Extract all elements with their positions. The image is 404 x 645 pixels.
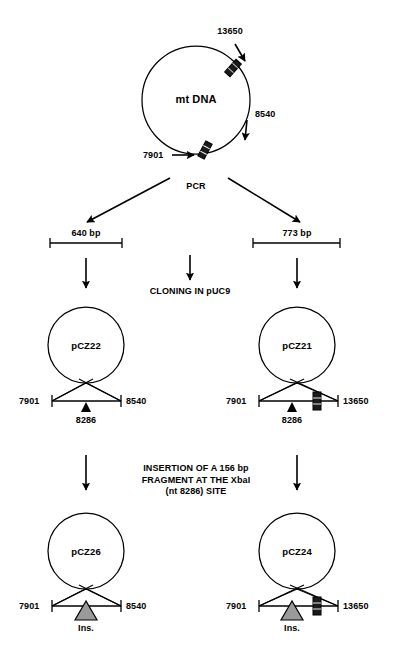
plasmid-pcz26-graphic [48,513,124,620]
arrow-13650 [235,44,245,61]
plasmid-label-pcz24: pCZ24 [282,546,312,557]
figure-root: 13650 mt DNA 8540 7901 PCR 640 bp 773 bp… [0,0,404,645]
arrow-pcr-left [87,178,170,222]
pcz26-right-coord: 8540 [126,601,146,612]
pcz26-left-coord: 7901 [19,601,39,612]
insert-triangle-pcz24 [281,601,303,620]
pcz22-site-label: 8286 [76,415,96,426]
fragment-label-773bp: 773 bp [282,228,311,239]
pcz24-insert-label: Ins. [284,623,300,634]
plasmid-pcz22-graphic [48,307,124,412]
fragment-bar-left [50,238,122,248]
pcz24-left-coord: 7901 [226,601,246,612]
pcz21-left-coord: 7901 [226,396,246,407]
step-cloning-label: CLONING IN pUC9 [150,286,231,297]
mtdna-position-8540: 8540 [255,109,275,120]
pcz21-right-coord: 13650 [343,396,369,407]
plasmid-pcz24-graphic [259,513,338,620]
plasmid-label-pcz22: pCZ22 [71,340,101,351]
site-marker-8286-right [287,402,297,412]
pcz22-right-coord: 8540 [126,396,146,407]
insert-triangle-pcz26 [75,601,97,620]
cloning-arrows [86,255,297,288]
mtdna-position-13650: 13650 [217,26,243,37]
arrow-pcr-right [228,178,300,222]
pcz21-site-label: 8286 [282,415,302,426]
step-insertion-line3: (nt 8286) SITE [142,486,251,498]
pcz24-right-coord: 13650 [343,601,369,612]
step-insertion-line1: INSERTION OF A 156 bp [142,463,251,475]
pcz22-left-coord: 7901 [19,396,39,407]
step-pcr-label: PCR [186,181,205,192]
fragment-label-640bp: 640 bp [71,228,100,239]
site-marker-8286-left [81,402,91,412]
mtdna-position-7901: 7901 [143,150,163,161]
plasmid-label-pcz26: pCZ26 [71,546,101,557]
mtdna-marker-7901 [198,141,212,159]
plasmid-pcz21-graphic [259,307,338,412]
black-box-marker-pcz24 [313,597,321,615]
pcz26-insert-label: Ins. [78,623,94,634]
plasmid-label-pcz21: pCZ21 [282,340,312,351]
fragment-bar-right [253,238,340,248]
step-insertion-block: INSERTION OF A 156 bp FRAGMENT AT THE Xb… [142,463,251,498]
mtdna-label: mt DNA [176,94,217,105]
step-insertion-line2: FRAGMENT AT THE XbaI [142,475,251,487]
black-box-marker-pcz21 [313,392,321,410]
